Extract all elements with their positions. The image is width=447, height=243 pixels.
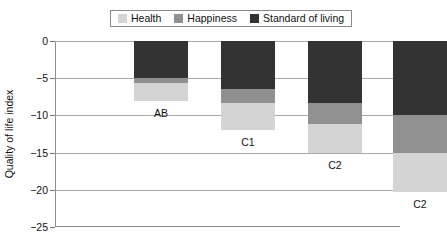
y-axis-tick-mark (50, 78, 55, 79)
bar-segment-health[interactable] (308, 124, 362, 153)
y-axis-tick-label: 0 (42, 35, 48, 47)
y-axis-tick-mark (50, 153, 55, 154)
legend-swatch-icon (250, 14, 259, 23)
legend-item-label: Standard of living (263, 13, 344, 24)
plot-area: 0−5−10−15−20−25 ABC1C2C2 (55, 41, 400, 227)
y-axis-tick-mark (50, 41, 55, 42)
y-axis-tick-label: −20 (30, 184, 48, 196)
y-axis-tick-mark (50, 190, 55, 191)
y-axis-title-label: Quality of life index (3, 90, 15, 179)
legend-swatch-icon (174, 14, 183, 23)
bar-segment-health[interactable] (221, 103, 275, 129)
bar-segment-standard-of-living[interactable] (308, 41, 362, 103)
y-axis-tick-label: −10 (30, 109, 48, 121)
bar-segment-standard-of-living[interactable] (134, 41, 188, 78)
bar-category-label: AB (154, 107, 168, 119)
bar-group[interactable]: C1 (221, 41, 275, 227)
legend-swatch-icon (118, 14, 127, 23)
y-axis-tick-label: −15 (30, 147, 48, 159)
bar-group[interactable]: C2 (308, 41, 362, 227)
bar-group[interactable]: C2 (393, 41, 447, 227)
y-axis-tick-mark (50, 115, 55, 116)
bar-segment-standard-of-living[interactable] (393, 41, 447, 115)
bar-segment-happiness[interactable] (221, 89, 275, 104)
chart-legend: HealthHappinessStandard of living (110, 10, 352, 27)
y-axis-tick-mark (50, 227, 55, 228)
legend-item-happiness[interactable]: Happiness (174, 13, 237, 24)
bar-segment-happiness[interactable] (308, 103, 362, 123)
y-axis-title: Quality of life index (2, 41, 16, 227)
y-axis-tick-label: −25 (30, 221, 48, 233)
bar-group[interactable]: AB (134, 41, 188, 227)
legend-item-label: Health (131, 13, 161, 24)
bar-segment-health[interactable] (134, 83, 188, 101)
bar-segment-standard-of-living[interactable] (221, 41, 275, 89)
y-axis-line (55, 41, 56, 227)
legend-item-standard-of-living[interactable]: Standard of living (250, 13, 344, 24)
bar-category-label: C2 (328, 159, 341, 171)
bar-category-label: C2 (413, 198, 426, 210)
bar-segment-health[interactable] (393, 153, 447, 192)
bar-category-label: C1 (241, 136, 254, 148)
legend-item-label: Happiness (187, 13, 237, 24)
bar-segment-happiness[interactable] (393, 115, 447, 152)
y-axis-tick-label: −5 (36, 72, 48, 84)
legend-item-health[interactable]: Health (118, 13, 161, 24)
